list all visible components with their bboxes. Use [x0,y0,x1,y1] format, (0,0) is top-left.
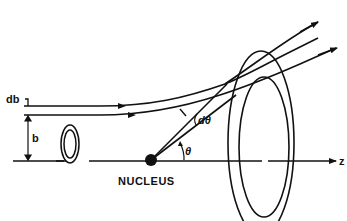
trajectories [24,22,336,115]
nucleus-label: NUCLEUS [118,175,175,187]
small-ring [61,125,79,163]
angle-rays [151,84,236,160]
scattering-diagram: z db b NUCLEUS [0,0,347,221]
db-bracket [25,99,28,106]
theta-arrowhead [178,141,183,146]
db-label: db [6,93,20,105]
dtheta-label: dθ [198,114,211,126]
large-ring [228,51,294,221]
dtheta-tick [180,109,186,116]
outgoing-arrows [300,22,337,55]
b-dimension [25,116,31,160]
b-label: b [32,132,39,144]
z-axis-label: z [339,155,345,167]
theta-label: θ [185,145,191,157]
